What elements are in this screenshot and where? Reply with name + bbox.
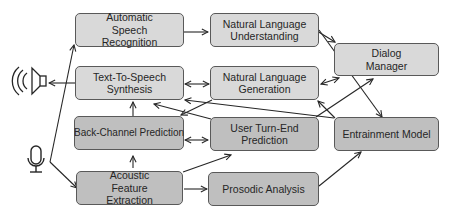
node-dialog-manager: Dialog Manager — [334, 43, 439, 76]
node-user-turn-end: User Turn-End Prediction — [210, 117, 319, 151]
node-entrainment: Entrainment Model — [334, 117, 439, 151]
speaker-icon — [10, 61, 50, 101]
node-label: Text-To-Speech Synthesis — [90, 71, 170, 96]
edge-mic-asr — [50, 45, 74, 162]
node-tts: Text-To-Speech Synthesis — [75, 66, 184, 100]
node-label: Acoustic Feature Extraction — [92, 169, 167, 207]
node-label: Prosodic Analysis — [222, 183, 304, 196]
edge-mic-afe — [50, 162, 77, 188]
node-nlu: Natural Language Understanding — [210, 13, 319, 47]
node-back-channel: Back-Channel Prediction — [74, 116, 184, 150]
node-nlg: Natural Language Generation — [210, 66, 319, 100]
node-label: Natural Language Understanding — [220, 18, 310, 43]
node-asr: Automatic Speech Recognition — [75, 13, 184, 47]
node-label: Entrainment Model — [342, 128, 430, 141]
node-label: Natural Language Generation — [220, 71, 310, 96]
microphone-icon — [26, 144, 48, 178]
node-acoustic-feature: Acoustic Feature Extraction — [76, 171, 183, 205]
node-prosodic: Prosodic Analysis — [208, 172, 319, 206]
node-label: Dialog Manager — [362, 47, 412, 72]
node-label: Automatic Speech Recognition — [90, 11, 170, 49]
node-label: User Turn-End Prediction — [230, 122, 300, 147]
node-label: Back-Channel Prediction — [74, 127, 184, 140]
